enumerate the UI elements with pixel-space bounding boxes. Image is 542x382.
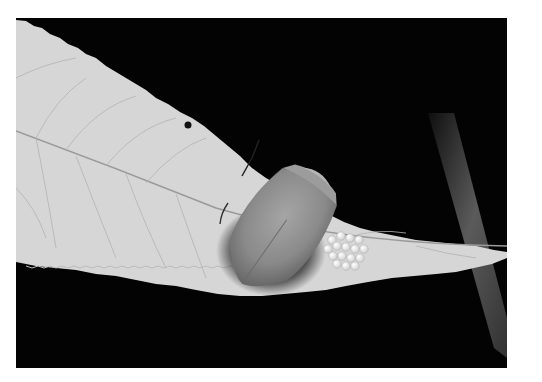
caption — [16, 374, 507, 382]
leaf-speck — [185, 122, 192, 129]
background-stem — [428, 113, 507, 358]
stink-bug-photo — [16, 18, 507, 368]
photograph — [16, 18, 507, 368]
